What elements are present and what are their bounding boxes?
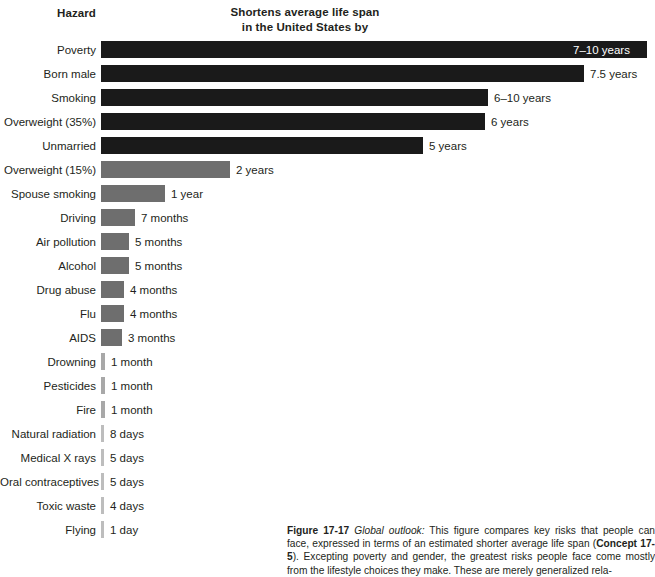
chart-row: Medical X rays5 days bbox=[0, 446, 655, 470]
hazard-label: Natural radiation bbox=[0, 422, 96, 446]
bar-value-label: 1 month bbox=[111, 350, 153, 374]
bar-value-label: 5 days bbox=[110, 446, 144, 470]
chart-row: Poverty7–10 years bbox=[0, 38, 655, 62]
chart-row: Born male7.5 years bbox=[0, 62, 655, 86]
bar-value-label: 5 years bbox=[429, 134, 467, 158]
chart-row: Air pollution5 months bbox=[0, 230, 655, 254]
chart-row: Alcohol5 months bbox=[0, 254, 655, 278]
hazard-label: Pesticides bbox=[0, 374, 96, 398]
hazard-bar bbox=[101, 521, 104, 538]
hazard-bar bbox=[101, 161, 230, 178]
hazard-label: Alcohol bbox=[0, 254, 96, 278]
hazard-label: Fire bbox=[0, 398, 96, 422]
hazard-bar bbox=[101, 65, 584, 82]
chart-row: Fire1 month bbox=[0, 398, 655, 422]
hazard-label: Toxic waste bbox=[0, 494, 96, 518]
hazard-label: Air pollution bbox=[0, 230, 96, 254]
hazard-label: Drowning bbox=[0, 350, 96, 374]
hazard-bar bbox=[101, 377, 105, 394]
chart-row: Drug abuse4 months bbox=[0, 278, 655, 302]
bar-value-label: 5 months bbox=[135, 254, 182, 278]
bar-value-label: 2 years bbox=[236, 158, 274, 182]
hazard-label: Driving bbox=[0, 206, 96, 230]
hazard-label: AIDS bbox=[0, 326, 96, 350]
hazard-bar bbox=[101, 281, 124, 298]
bar-value-label: 1 year bbox=[171, 182, 203, 206]
chart-row: Overweight (15%)2 years bbox=[0, 158, 655, 182]
chart-row: Spouse smoking1 year bbox=[0, 182, 655, 206]
bar-value-label: 1 day bbox=[110, 518, 138, 542]
bar-value-label: 7–10 years bbox=[573, 38, 630, 62]
chart-row: Smoking6–10 years bbox=[0, 86, 655, 110]
chart-row: Unmarried5 years bbox=[0, 134, 655, 158]
bar-value-label: 4 months bbox=[130, 302, 177, 326]
hazard-label: Oral contraceptives bbox=[0, 470, 96, 494]
bar-value-label: 1 month bbox=[111, 398, 153, 422]
chart-row: Driving7 months bbox=[0, 206, 655, 230]
caption-lead-in: Global outlook: bbox=[354, 525, 424, 536]
hazard-label: Overweight (15%) bbox=[0, 158, 96, 182]
bar-value-label: 8 days bbox=[110, 422, 144, 446]
figure-caption: Figure 17-17 Global outlook: This figure… bbox=[287, 524, 655, 577]
hazard-bar bbox=[101, 209, 135, 226]
hazard-label: Flu bbox=[0, 302, 96, 326]
hazard-bar bbox=[101, 449, 104, 466]
hazard-bar bbox=[101, 137, 423, 154]
hazard-column-header: Hazard bbox=[0, 7, 96, 19]
hazard-bar bbox=[101, 89, 488, 106]
chart-row: Drowning1 month bbox=[0, 350, 655, 374]
chart-header: Hazard Shortens average life span in the… bbox=[0, 0, 655, 38]
figure-number: Figure 17-17 bbox=[287, 525, 349, 536]
hazard-label: Spouse smoking bbox=[0, 182, 96, 206]
bar-value-label: 7 months bbox=[141, 206, 188, 230]
value-column-header-line1: Shortens average life span bbox=[170, 5, 440, 20]
value-column-header: Shortens average life span in the United… bbox=[170, 5, 440, 34]
hazard-bar bbox=[101, 185, 165, 202]
chart-row: Flu4 months bbox=[0, 302, 655, 326]
chart-row: Oral contraceptives5 days bbox=[0, 470, 655, 494]
hazard-bar bbox=[101, 329, 122, 346]
bar-value-label: 6–10 years bbox=[494, 86, 551, 110]
chart-row: Toxic waste4 days bbox=[0, 494, 655, 518]
hazard-bar-chart: Poverty7–10 yearsBorn male7.5 yearsSmoki… bbox=[0, 38, 655, 542]
value-column-header-line2: in the United States by bbox=[170, 20, 440, 35]
hazard-bar bbox=[101, 425, 104, 442]
bar-value-label: 4 months bbox=[130, 278, 177, 302]
chart-row: Pesticides1 month bbox=[0, 374, 655, 398]
chart-row: AIDS3 months bbox=[0, 326, 655, 350]
hazard-bar bbox=[101, 353, 105, 370]
hazard-label: Medical X rays bbox=[0, 446, 96, 470]
hazard-label: Drug abuse bbox=[0, 278, 96, 302]
bar-value-label: 5 months bbox=[135, 230, 182, 254]
hazard-bar bbox=[101, 305, 124, 322]
hazard-bar bbox=[101, 473, 104, 490]
bar-value-label: 7.5 years bbox=[590, 62, 637, 86]
hazard-bar bbox=[101, 113, 485, 130]
chart-row: Overweight (35%)6 years bbox=[0, 110, 655, 134]
hazard-label: Poverty bbox=[0, 38, 96, 62]
hazard-bar bbox=[101, 401, 105, 418]
hazard-bar bbox=[101, 497, 104, 514]
hazard-label: Flying bbox=[0, 518, 96, 542]
chart-row: Natural radiation8 days bbox=[0, 422, 655, 446]
caption-text-part2: ). Excepting poverty and gender, the gre… bbox=[287, 551, 655, 575]
bar-value-label: 1 month bbox=[111, 374, 153, 398]
hazard-bar bbox=[101, 233, 129, 250]
bar-value-label: 6 years bbox=[491, 110, 529, 134]
bar-value-label: 5 days bbox=[110, 470, 144, 494]
hazard-bar bbox=[101, 257, 129, 274]
hazard-label: Overweight (35%) bbox=[0, 110, 96, 134]
hazard-bar bbox=[101, 41, 647, 58]
bar-value-label: 4 days bbox=[110, 494, 144, 518]
bar-value-label: 3 months bbox=[128, 326, 175, 350]
hazard-label: Smoking bbox=[0, 86, 96, 110]
hazard-label: Born male bbox=[0, 62, 96, 86]
hazard-label: Unmarried bbox=[0, 134, 96, 158]
